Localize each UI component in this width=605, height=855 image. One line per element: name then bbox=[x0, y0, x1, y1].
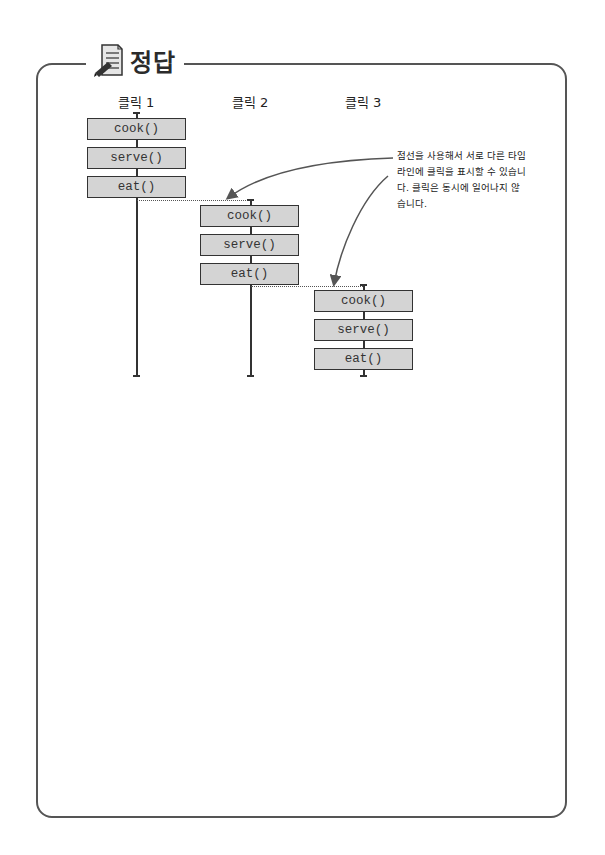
arrow-to-sync-line-1 bbox=[228, 158, 393, 198]
arrow-to-sync-line-2 bbox=[334, 176, 388, 284]
annotation-arrows bbox=[0, 0, 605, 855]
